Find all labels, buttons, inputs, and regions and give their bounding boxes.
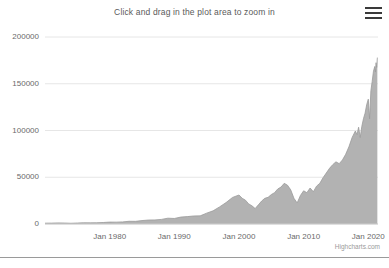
highcharts-credits[interactable]: Highcharts.com [335, 243, 380, 250]
y-axis-tick-label: 150000 [12, 79, 39, 88]
x-axis-tick-label: Jan 1980 [80, 232, 140, 241]
y-axis-tick-label: 200000 [12, 32, 39, 41]
area-series [45, 58, 377, 224]
highcharts-chart-container[interactable]: Click and drag in the plot area to zoom … [0, 0, 389, 256]
y-axis-tick-label: 0 [35, 219, 39, 228]
x-axis-tick-label: Jan 2000 [209, 232, 269, 241]
plot-area[interactable] [0, 0, 389, 256]
area-fill [45, 58, 377, 224]
y-axis-tick-label: 100000 [12, 126, 39, 135]
page-bottom-fill [0, 258, 389, 268]
x-axis-tick-label: Jan 2020 [338, 232, 389, 241]
x-axis-tick-label: Jan 1990 [144, 232, 204, 241]
x-axis-tick-label: Jan 2010 [274, 232, 334, 241]
y-axis-tick-label: 50000 [17, 172, 39, 181]
